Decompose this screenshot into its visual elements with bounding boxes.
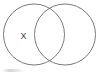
venn-diagram-canvas: X bbox=[0, 0, 99, 73]
venn-diagram-figure: X bbox=[0, 0, 99, 73]
region-label-x: X bbox=[20, 31, 26, 41]
